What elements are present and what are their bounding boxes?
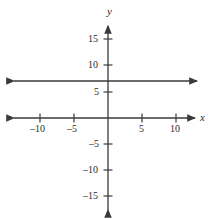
y-tick-label--10: –10 bbox=[83, 165, 98, 175]
coordinate-plane-figure: –10 –5 5 10 15 10 5 –5 –10 –15 y x bbox=[0, 0, 213, 219]
y-tick-label-15: 15 bbox=[88, 34, 98, 44]
x-tick-label--5: –5 bbox=[67, 124, 77, 134]
x-tick-label-5: 5 bbox=[139, 124, 144, 134]
y-tick-label--15: –15 bbox=[83, 191, 98, 201]
x-axis-label: x bbox=[200, 112, 205, 123]
y-tick-label-5: 5 bbox=[94, 87, 99, 97]
y-tick-label--5: –5 bbox=[89, 139, 99, 149]
y-tick-label-10: 10 bbox=[88, 60, 98, 70]
x-tick-label-10: 10 bbox=[170, 124, 180, 134]
x-tick-label--10: –10 bbox=[30, 124, 45, 134]
y-axis-label: y bbox=[107, 6, 112, 17]
graph-canvas bbox=[0, 0, 213, 219]
